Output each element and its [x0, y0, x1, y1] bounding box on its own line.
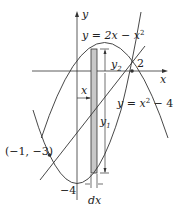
y2-arrow-icon	[104, 49, 107, 54]
dx-label: dx	[88, 194, 102, 207]
dx-dimension	[85, 174, 103, 188]
strip-x-label: x	[81, 84, 88, 97]
y1-label: y1	[99, 115, 111, 130]
upper-curve-label: y = 2x − x2	[81, 29, 145, 42]
y-min-label: −4	[60, 184, 76, 197]
lower-curve-label: y = x2 − 4	[116, 97, 173, 110]
x-axis-label: x	[160, 73, 167, 86]
y1-arrow-icon	[104, 168, 107, 173]
y-axis-label: y	[81, 8, 89, 21]
region-between-curves-diagram: y x y = 2x − x2 y = x2 − 4 2 (−1, −3) −4…	[0, 0, 178, 210]
y2-label: y2	[110, 58, 122, 73]
intersection-point-2	[130, 69, 134, 73]
y-axis-arrow-icon	[75, 11, 79, 17]
x-intercept-label: 2	[137, 57, 144, 70]
point-label: (−1, −3)	[5, 145, 53, 158]
